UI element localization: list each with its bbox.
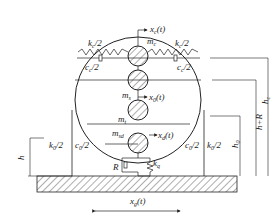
ground-base [37,176,237,192]
label-hR: h+R [254,113,264,130]
spring-kq [138,158,153,176]
label-xc: xc(t) [149,24,165,35]
label-h0: h0 [230,141,241,149]
label-R: R [112,162,119,172]
height-h [30,138,44,176]
damper-R [124,162,127,168]
label-ms: ms [122,90,132,101]
label-hc: hc [260,97,271,105]
label-c0-left: c0/2 [75,140,90,151]
spring-kc-left [78,49,128,55]
mass-ms [128,70,148,90]
mass-msd [128,133,148,153]
mass-mc [128,46,148,66]
label-mc: mc [147,36,157,47]
label-cc-left: cc/2 [85,62,99,73]
label-kc-left: kc/2 [88,38,102,49]
label-k0-left: k0/2 [49,140,64,151]
tank-model-diagram: kc/2 kc/2 cc/2 cc/2 mc xc(t) ms x0(t) mt… [0,0,280,224]
mass-mt [128,100,148,120]
damper-cc-right [174,55,177,61]
height-hR [212,80,256,176]
label-kc-right: kc/2 [175,38,189,49]
damper-cc-left [99,55,102,61]
label-k0-right: k0/2 [207,140,222,151]
spring-kc-right [148,49,198,55]
label-x0: x0(t) [148,92,165,103]
label-msd: msd [112,128,125,139]
label-mt: mt [118,114,127,125]
label-xd: xd(t) [157,130,174,141]
label-cc-right: cc/2 [177,62,191,73]
label-h: h [16,155,26,160]
label-c0-right: c0/2 [185,140,200,151]
label-xg: xg(t) [129,196,146,207]
